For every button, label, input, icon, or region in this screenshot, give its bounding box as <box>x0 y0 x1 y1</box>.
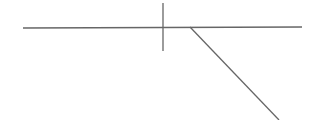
diagonal-line <box>190 27 279 120</box>
line-diagram <box>0 0 319 120</box>
